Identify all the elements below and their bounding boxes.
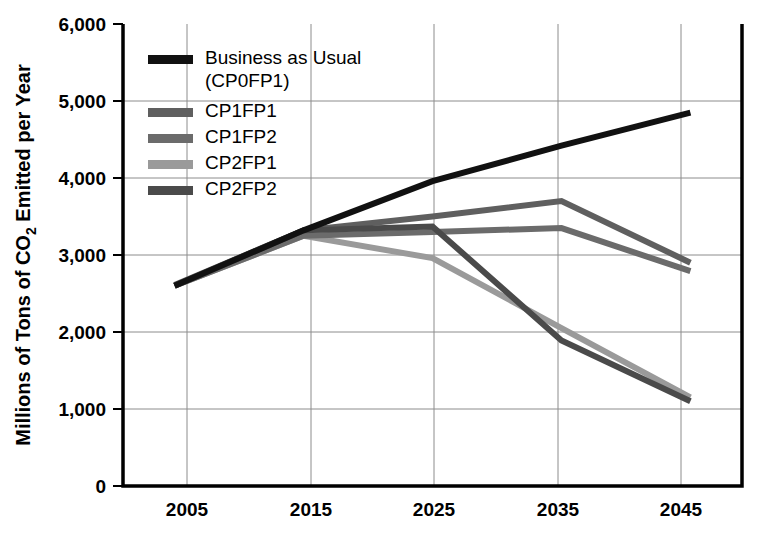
y-axis-title-subscript: 2	[23, 227, 39, 235]
legend-swatch-cp2fp1	[148, 160, 193, 169]
legend-label-cp1fp2: CP1FP2	[205, 126, 277, 147]
x-tick-label-2035: 2035	[537, 499, 580, 520]
legend-label-business-as-usual-line2: (CP0FP1)	[205, 70, 289, 91]
x-tick-label-2015: 2015	[290, 499, 333, 520]
legend-label-cp2fp1: CP2FP1	[205, 152, 277, 173]
legend-label-business-as-usual-line1: Business as Usual	[205, 47, 361, 68]
legend-swatch-cp1fp2	[148, 134, 193, 143]
legend-swatch-cp2fp2	[148, 186, 193, 195]
y-axis-title-tail: Emitted per Year	[12, 64, 34, 227]
x-tick-label-2025: 2025	[413, 499, 456, 520]
y-axis-title-main: Millions of Tons of CO	[12, 235, 34, 446]
y-tick-label-1000: 1,000	[58, 399, 106, 420]
y-tick-labels: 6,000 5,000 4,000 3,000 2,000 1,000 0	[58, 14, 106, 497]
y-tick-label-6000: 6,000	[58, 14, 106, 35]
y-tick-label-0: 0	[95, 476, 106, 497]
line-chart: 6,000 5,000 4,000 3,000 2,000 1,000 0 20…	[0, 0, 762, 539]
y-tick-label-2000: 2,000	[58, 322, 106, 343]
chart-canvas: 6,000 5,000 4,000 3,000 2,000 1,000 0 20…	[0, 0, 762, 539]
x-tick-label-2005: 2005	[166, 499, 209, 520]
legend-label-cp2fp2: CP2FP2	[205, 178, 277, 199]
legend-swatch-business-as-usual	[148, 55, 193, 64]
legend-swatch-cp1fp1	[148, 108, 193, 117]
x-tick-labels: 2005 2015 2025 2035 2045	[166, 499, 703, 520]
y-tick-label-5000: 5,000	[58, 91, 106, 112]
y-tick-label-4000: 4,000	[58, 168, 106, 189]
y-axis-title: Millions of Tons of CO2 Emitted per Year	[12, 64, 39, 446]
svg-text:Millions of Tons of CO2 Emitte: Millions of Tons of CO2 Emitted per Year	[12, 64, 39, 446]
y-tick-label-3000: 3,000	[58, 245, 106, 266]
x-tick-label-2045: 2045	[660, 499, 703, 520]
legend-label-cp1fp1: CP1FP1	[205, 100, 277, 121]
